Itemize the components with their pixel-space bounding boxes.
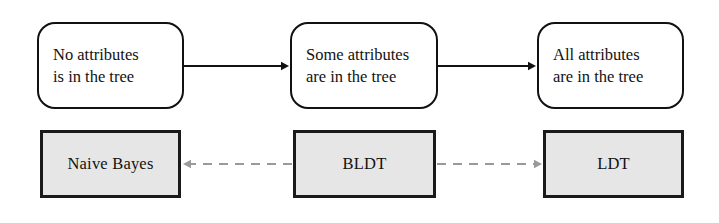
connector-state-arrow-1	[184, 62, 289, 70]
state-box-line-1: No attributes	[39, 44, 182, 66]
algorithm-box-bldt: BLDT	[293, 130, 436, 198]
arrowhead-icon	[534, 160, 542, 168]
arrowhead-icon	[183, 160, 191, 168]
state-box-line-2: is in the tree	[39, 66, 182, 88]
arrowhead-icon	[528, 62, 536, 70]
connector-algo-dashed-left	[183, 160, 292, 168]
state-box-line-1: Some attributes	[292, 44, 436, 66]
state-box-line-2: are in the tree	[539, 66, 682, 88]
algorithm-box-label: LDT	[597, 154, 630, 174]
connector-algo-dashed-right	[437, 160, 542, 168]
algorithm-box-label: Naive Bayes	[67, 154, 153, 174]
state-box-all-attributes: All attributes are in the tree	[537, 22, 684, 109]
algorithm-box-label: BLDT	[343, 154, 387, 174]
algorithm-box-ldt: LDT	[543, 130, 684, 198]
state-box-line-1: All attributes	[539, 44, 682, 66]
state-box-line-2: are in the tree	[292, 66, 436, 88]
diagram-canvas: No attributes is in the tree Some attrib…	[0, 0, 719, 223]
state-box-no-attributes: No attributes is in the tree	[37, 22, 184, 109]
state-box-some-attributes: Some attributes are in the tree	[290, 22, 438, 109]
algorithm-box-naive-bayes: Naive Bayes	[40, 130, 181, 198]
connector-state-arrow-2	[438, 62, 536, 70]
arrowhead-icon	[281, 62, 289, 70]
